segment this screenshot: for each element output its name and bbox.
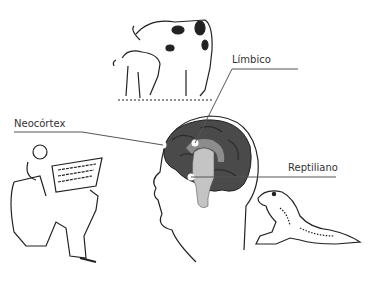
cow-illustration (113, 20, 212, 100)
limbic-label: Límbico (232, 54, 271, 65)
lizard-illustration (256, 191, 360, 244)
man-reading-illustration (11, 145, 102, 262)
neocortex-label: Neocórtex (14, 118, 65, 129)
head-illustration (154, 116, 259, 262)
reptilian-label: Reptiliano (288, 162, 338, 173)
diagram-canvas (0, 0, 369, 283)
neocortex-leader-line (14, 132, 163, 145)
